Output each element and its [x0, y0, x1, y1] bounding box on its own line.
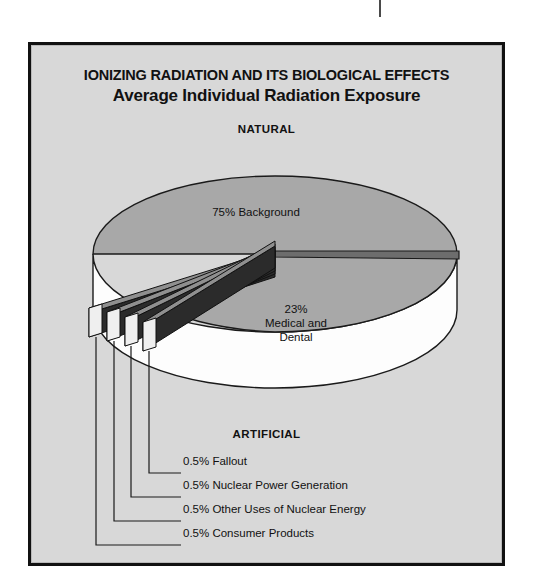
callout-text-fallout: 0.5% Fallout — [183, 455, 247, 467]
callout-label-consumer-products: 0.5% Consumer Products — [183, 521, 483, 545]
wedge-tip-cap-3 — [107, 308, 120, 341]
figure-frame: IONIZING RADIATION AND ITS BIOLOGICAL EF… — [28, 42, 505, 566]
pie-label-medical: 23% Medical and Dental — [226, 302, 366, 344]
pie-label-background-text: 75% Background — [212, 206, 300, 218]
callout-text-consumer-products: 0.5% Consumer Products — [183, 527, 314, 539]
wedge-tip-cap-1 — [143, 318, 156, 351]
page-edge-tick-mark — [379, 0, 381, 17]
callout-label-nuclear-power: 0.5% Nuclear Power Generation — [183, 473, 483, 497]
pie-label-background: 75% Background — [161, 205, 351, 219]
callout-text-other-uses: 0.5% Other Uses of Nuclear Energy — [183, 503, 366, 515]
callout-text-nuclear-power: 0.5% Nuclear Power Generation — [183, 479, 348, 491]
callout-label-fallout: 0.5% Fallout — [183, 449, 483, 473]
pie-label-medical-percent: 23% — [226, 302, 366, 316]
callout-label-list: 0.5% Fallout 0.5% Nuclear Power Generati… — [183, 449, 483, 545]
callout-label-other-uses: 0.5% Other Uses of Nuclear Energy — [183, 497, 483, 521]
section-label-artificial: ARTIFICIAL — [31, 428, 502, 440]
pie-label-medical-line2: Medical and — [226, 316, 366, 330]
pie-divider-right — [275, 251, 459, 259]
wedge-tip-cap-2 — [125, 313, 138, 346]
wedge-tip-cap-4 — [89, 304, 102, 337]
pie-label-medical-line3: Dental — [226, 330, 366, 344]
